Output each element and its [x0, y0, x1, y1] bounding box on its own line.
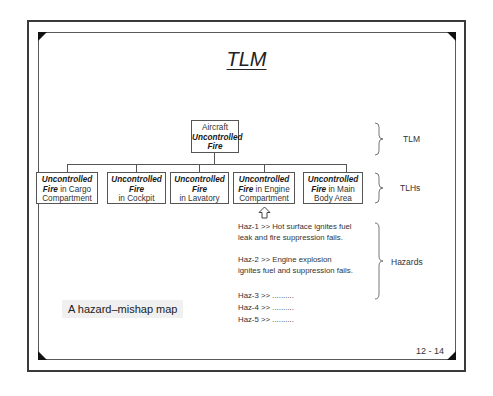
root-bold1: Uncontrolled [192, 133, 243, 142]
brace-tlm-icon [374, 122, 386, 156]
slide-title: TLM [0, 48, 493, 71]
connector-child-3 [199, 164, 200, 172]
child-bold: Uncontrolled [239, 175, 290, 184]
corner-decoration [38, 32, 47, 41]
hazard-item-4: Haz-4 >> .......... [238, 302, 294, 313]
hazard-2-line2: ignites fuel and suppression fails. [238, 265, 353, 276]
child-bold2: Fire [43, 185, 58, 194]
connector-root-down [214, 153, 215, 164]
brace-label-tlm: TLM [403, 134, 420, 144]
root-bold2: Fire [207, 142, 222, 151]
tree-child-node-lavatory: Uncontrolled Fire in Lavatory [170, 172, 229, 204]
child-bold: Uncontrolled [308, 175, 359, 184]
child-bold: Uncontrolled [42, 175, 93, 184]
connector-child-4 [264, 164, 265, 172]
connector-child-2 [136, 164, 137, 172]
corner-decoration [447, 32, 456, 41]
hazard-item-2: Haz-2 >> Engine explosion ignites fuel a… [238, 254, 353, 276]
child-line3: Compartment [37, 194, 97, 204]
hazard-2-line1: Haz-2 >> Engine explosion [238, 254, 353, 265]
corner-decoration [447, 351, 456, 360]
hazard-item-5: Haz-5 >> .......... [238, 314, 294, 325]
child-bold2: Fire [129, 185, 144, 194]
tree-root-node: Aircraft Uncontrolled Fire [191, 120, 239, 153]
brace-tlhs-icon [374, 172, 386, 204]
connector-horizontal [67, 164, 346, 165]
root-line1: Aircraft [192, 123, 238, 133]
child-rest: in Main [326, 185, 355, 194]
child-bold2: Fire [311, 185, 326, 194]
child-line3: Body Area [304, 194, 362, 204]
child-line3: in Cockpit [108, 194, 165, 204]
slide-caption: A hazard–mishap map [62, 300, 183, 318]
child-bold2: Fire [238, 185, 253, 194]
hazard-1-line1: Haz-1 >> Hot surface ignites fuel [238, 221, 352, 232]
hazard-1-line2: leak and fire suppression fails. [238, 232, 352, 243]
child-line3: Compartment [234, 194, 294, 204]
up-arrow-icon [258, 206, 271, 219]
child-bold: Uncontrolled [174, 175, 225, 184]
brace-label-tlhs: TLHs [400, 183, 420, 193]
child-line3: in Lavatory [171, 194, 228, 204]
child-rest: in Engine [253, 185, 289, 194]
corner-decoration [38, 351, 47, 360]
hazard-item-1: Haz-1 >> Hot surface ignites fuel leak a… [238, 221, 352, 243]
page-number: 12 - 14 [416, 346, 444, 356]
tree-child-node-main-body: Uncontrolled Fire in Main Body Area [303, 172, 363, 204]
hazard-item-3: Haz-3 >> .......... [238, 290, 294, 301]
tree-child-node-cargo: Uncontrolled Fire in Cargo Compartment [36, 172, 98, 204]
connector-child-1 [67, 164, 68, 172]
connector-child-5 [346, 164, 347, 172]
tree-child-node-cockpit: Uncontrolled Fire in Cockpit [107, 172, 166, 204]
brace-label-hazards: Hazards [391, 257, 423, 267]
child-rest: in Cargo [58, 185, 91, 194]
tree-child-node-engine: Uncontrolled Fire in Engine Compartment [233, 172, 295, 204]
brace-hazards-icon [374, 222, 386, 300]
child-bold2: Fire [192, 185, 207, 194]
child-bold: Uncontrolled [111, 175, 162, 184]
